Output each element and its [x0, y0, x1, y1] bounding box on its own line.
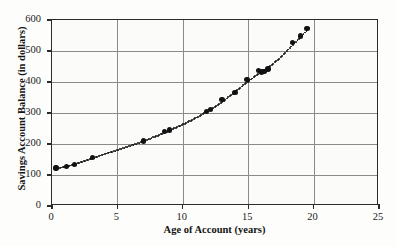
x-tick-mark	[313, 204, 314, 209]
data-point	[72, 162, 77, 167]
data-point	[208, 107, 213, 112]
data-point	[232, 90, 237, 95]
y-tick-mark	[47, 143, 52, 144]
x-tick-mark	[378, 204, 379, 209]
data-point	[90, 155, 95, 160]
y-tick-mark	[47, 50, 52, 51]
y-tick-mark	[47, 19, 52, 20]
x-tick-mark	[182, 204, 183, 209]
chart-figure: 01002003004005006000510152025 Age of Acc…	[0, 0, 396, 246]
y-tick-mark	[47, 81, 52, 82]
trend-curve-dot	[289, 47, 291, 49]
data-point	[304, 26, 309, 31]
x-tick-label: 10	[167, 212, 197, 222]
trend-curve-dot	[286, 50, 288, 52]
x-tick-mark	[51, 204, 52, 209]
x-tick-label: 15	[232, 212, 262, 222]
plot-area	[51, 19, 378, 205]
x-tick-label: 25	[363, 212, 393, 222]
x-axis-title: Age of Account (years)	[51, 224, 378, 235]
data-point	[141, 138, 146, 143]
data-layer	[52, 20, 377, 204]
y-tick-mark	[47, 112, 52, 113]
data-point	[265, 66, 270, 71]
x-tick-mark	[248, 204, 249, 209]
data-point	[53, 165, 58, 170]
x-tick-label: 0	[36, 212, 66, 222]
data-point	[167, 127, 172, 132]
x-tick-label: 20	[298, 212, 328, 222]
y-axis-title: Savings Account Balance (in dollars)	[16, 14, 27, 204]
trend-curve-dot	[295, 41, 297, 43]
y-tick-mark	[47, 174, 52, 175]
trend-curve-dot	[239, 87, 241, 89]
x-tick-label: 5	[101, 212, 131, 222]
x-tick-mark	[117, 204, 118, 209]
data-point	[64, 164, 69, 169]
data-point	[290, 40, 295, 45]
data-point	[219, 97, 224, 102]
data-point	[244, 77, 249, 82]
data-point	[298, 33, 303, 38]
